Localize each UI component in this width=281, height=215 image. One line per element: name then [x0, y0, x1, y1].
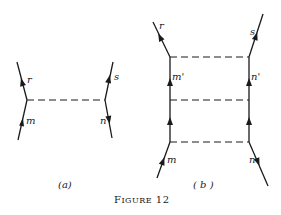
arrow-up-icon: [156, 32, 165, 42]
panel-a: r s m n (a): [17, 62, 119, 190]
label-m-a: m: [26, 115, 35, 126]
title-initial: F: [114, 194, 121, 205]
label-r-a: r: [27, 74, 33, 85]
figure-12-diagram: r s m n (a) r s m' n' m n ( b ): [0, 0, 281, 215]
arrow-up-icon: [246, 117, 252, 125]
label-m-b: m: [167, 154, 176, 165]
arrow-up-icon: [105, 74, 113, 83]
title-smallcaps: IGURE: [121, 196, 152, 205]
label-r-b: r: [159, 20, 165, 31]
label-n-prime: n': [251, 71, 260, 82]
caption-b: ( b ): [193, 179, 214, 190]
panel-b: r s m' n' m n ( b ): [153, 14, 268, 190]
label-n-a: n: [100, 115, 106, 126]
label-m-prime: m': [172, 71, 184, 82]
label-n-b: n: [249, 154, 255, 165]
title-number: 12: [152, 194, 169, 205]
label-s-b: s: [250, 26, 255, 37]
label-s-a: s: [114, 71, 119, 82]
figure-title: FIGURE 12: [114, 194, 170, 205]
arrow-up-icon: [167, 117, 173, 125]
arrow-up-icon: [159, 156, 167, 166]
arrow-up-icon: [19, 118, 26, 127]
caption-a: (a): [58, 179, 72, 190]
